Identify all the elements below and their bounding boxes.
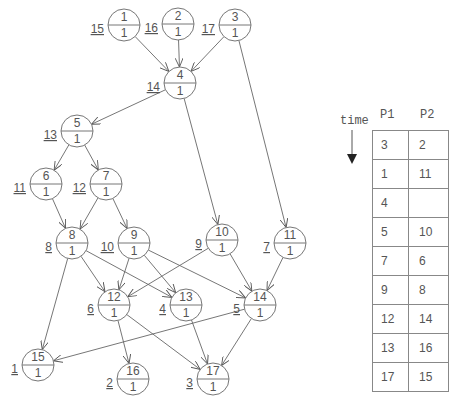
task-node-12: 1216	[87, 289, 130, 321]
node-priority-label: 2	[106, 376, 113, 390]
edge-5-7	[85, 145, 99, 170]
node-id: 15	[31, 350, 45, 364]
task-node-3: 3117	[202, 9, 251, 41]
node-weight: 1	[210, 380, 217, 394]
schedule-row: 510	[373, 218, 449, 247]
schedule-row: 98	[373, 276, 449, 305]
schedule-row: 76	[373, 247, 449, 276]
node-id: 1	[121, 10, 128, 24]
schedule-row: 4	[373, 189, 449, 218]
cell-p1: 9	[373, 276, 409, 305]
edge-8-15	[42, 258, 67, 349]
node-weight: 1	[35, 366, 42, 380]
task-node-11: 1117	[263, 227, 306, 259]
cell-p1: 5	[373, 218, 409, 247]
node-id: 3	[232, 10, 239, 24]
node-weight: 1	[130, 380, 137, 394]
cell-p2: 11	[409, 160, 449, 189]
node-id: 4	[177, 68, 184, 82]
node-id: 10	[215, 225, 229, 239]
node-id: 14	[253, 290, 267, 304]
node-weight: 1	[219, 241, 226, 255]
task-node-10: 1019	[195, 224, 238, 256]
edge-1-4	[135, 37, 169, 72]
task-graph: 1115211631174114511361117112818911010191…	[0, 0, 330, 412]
edge-9-14	[148, 250, 245, 298]
task-node-9: 9110	[101, 227, 150, 259]
node-priority-label: 3	[186, 376, 193, 390]
node-weight: 1	[103, 185, 110, 199]
node-weight: 1	[69, 244, 76, 258]
node-id: 11	[284, 228, 297, 242]
task-node-2: 2116	[145, 8, 194, 40]
node-priority-label: 7	[263, 240, 270, 254]
edge-2-4	[179, 40, 180, 67]
node-priority-label: 15	[91, 22, 105, 36]
node-weight: 1	[183, 306, 190, 320]
cell-p1: 13	[373, 334, 409, 363]
node-weight: 1	[175, 25, 182, 39]
node-id: 16	[126, 364, 140, 378]
node-id: 12	[107, 290, 121, 304]
cell-p1: 17	[373, 363, 409, 392]
edge-9-12	[119, 258, 129, 290]
edge-3-4	[191, 37, 224, 72]
edge-12-17	[127, 315, 200, 370]
task-node-17: 1713	[186, 363, 229, 395]
time-arrow-icon	[346, 130, 358, 166]
node-id: 2	[175, 9, 182, 23]
node-weight: 1	[74, 132, 81, 146]
node-weight: 1	[131, 244, 138, 258]
node-id: 9	[131, 228, 138, 242]
task-node-8: 818	[45, 227, 88, 259]
cell-p2: 10	[409, 218, 449, 247]
node-priority-label: 16	[145, 21, 159, 35]
node-priority-label: 11	[14, 181, 27, 195]
edge-13-17	[191, 320, 207, 364]
node-id: 8	[69, 228, 76, 242]
schedule-table: 3211145107698121413161715	[372, 130, 449, 392]
node-priority-label: 6	[87, 302, 94, 316]
node-id: 5	[74, 116, 81, 130]
cell-p1: 1	[373, 160, 409, 189]
task-node-14: 1415	[233, 289, 276, 321]
node-priority-label: 9	[195, 237, 202, 251]
node-weight: 1	[257, 306, 264, 320]
cell-p2: 2	[409, 131, 449, 160]
cell-p1: 4	[373, 189, 409, 218]
node-id: 7	[103, 169, 110, 183]
edge-7-9	[113, 198, 127, 228]
cell-p2: 14	[409, 305, 449, 334]
node-weight: 1	[232, 26, 239, 40]
edge-10-14	[230, 254, 252, 291]
schedule-row: 111	[373, 160, 449, 189]
cell-p2: 16	[409, 334, 449, 363]
cell-p1: 7	[373, 247, 409, 276]
edge-14-15	[53, 309, 244, 361]
node-priority-label: 4	[159, 302, 166, 316]
cell-p1: 12	[373, 305, 409, 334]
column-header-p1: P1	[380, 108, 394, 122]
node-priority-label: 5	[233, 302, 240, 316]
node-weight: 1	[287, 244, 294, 258]
edge-5-6	[54, 145, 69, 170]
task-node-4: 4114	[147, 67, 196, 99]
edge-8-12	[81, 256, 105, 292]
nodes: 1115211631174114511361117112818911010191…	[11, 8, 306, 395]
task-node-6: 6111	[14, 168, 62, 200]
cell-p2: 6	[409, 247, 449, 276]
node-id: 13	[179, 290, 193, 304]
cell-p2: 8	[409, 276, 449, 305]
node-priority-label: 1	[11, 362, 18, 376]
node-id: 17	[206, 364, 220, 378]
task-node-1: 1115	[91, 9, 140, 41]
node-priority-label: 10	[101, 240, 115, 254]
time-label: time	[340, 114, 369, 128]
edge-11-14	[267, 257, 283, 290]
task-node-16: 1612	[106, 363, 149, 395]
node-weight: 1	[121, 26, 128, 40]
task-node-7: 7112	[73, 168, 122, 200]
task-node-15: 1511	[11, 349, 54, 381]
schedule-row: 1316	[373, 334, 449, 363]
node-priority-label: 8	[45, 240, 52, 254]
